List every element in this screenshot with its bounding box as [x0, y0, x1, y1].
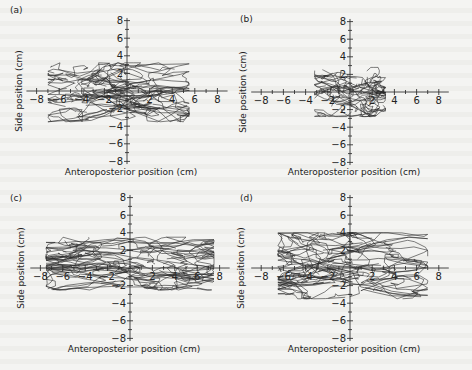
svg-text:4: 4: [120, 227, 126, 238]
svg-text:−4: −4: [331, 122, 346, 133]
svg-text:8: 8: [436, 271, 442, 282]
panel-a-label: (a): [10, 5, 23, 15]
panel-a-xlabel: Anteroposterior position (cm): [65, 167, 197, 177]
svg-text:6: 6: [117, 33, 123, 44]
svg-text:−8: −8: [254, 95, 269, 106]
figure-canvas: (a) Side position (cm) Anteroposterior p…: [0, 0, 472, 370]
svg-text:−8: −8: [331, 333, 346, 344]
svg-text:−8: −8: [331, 157, 346, 168]
svg-text:6: 6: [120, 210, 126, 221]
svg-text:−8: −8: [29, 94, 44, 105]
svg-text:−4: −4: [298, 95, 313, 106]
svg-text:−4: −4: [331, 298, 346, 309]
svg-text:6: 6: [413, 95, 419, 106]
svg-text:−8: −8: [33, 271, 48, 282]
svg-text:8: 8: [117, 15, 123, 26]
svg-text:−8: −8: [111, 333, 126, 344]
svg-text:−6: −6: [331, 315, 346, 326]
svg-text:−6: −6: [276, 95, 291, 106]
svg-text:4: 4: [340, 51, 346, 62]
panel-d-xlabel: Anteroposterior position (cm): [288, 344, 420, 354]
svg-text:6: 6: [340, 34, 346, 45]
panel-c-label: (c): [10, 193, 22, 203]
svg-text:8: 8: [436, 95, 442, 106]
panel-a-ylabel: Side position (cm): [14, 50, 24, 132]
svg-text:4: 4: [117, 50, 123, 61]
panel-d-ylabel: Side position (cm): [236, 227, 246, 309]
svg-text:8: 8: [120, 192, 126, 203]
svg-text:2: 2: [120, 245, 126, 256]
svg-text:−6: −6: [108, 138, 123, 149]
svg-text:−4: −4: [108, 121, 123, 132]
svg-text:6: 6: [192, 94, 198, 105]
panel-d-label: (d): [240, 193, 253, 203]
svg-text:8: 8: [340, 192, 346, 203]
panel-b-label: (b): [240, 14, 253, 24]
svg-text:8: 8: [214, 94, 220, 105]
panel-c-ylabel: Side position (cm): [16, 227, 26, 309]
panel-b-ylabel: Side position (cm): [238, 51, 248, 133]
panel-c-xlabel: Anteroposterior position (cm): [68, 344, 200, 354]
svg-text:8: 8: [216, 271, 222, 282]
svg-text:−8: −8: [254, 271, 269, 282]
svg-text:−6: −6: [331, 139, 346, 150]
svg-text:4: 4: [391, 95, 397, 106]
svg-text:6: 6: [340, 210, 346, 221]
svg-text:8: 8: [340, 16, 346, 27]
svg-text:−6: −6: [111, 315, 126, 326]
svg-text:−4: −4: [111, 298, 126, 309]
svg-text:−8: −8: [108, 156, 123, 167]
scan-bleed-through: [0, 8, 472, 364]
panel-b-xlabel: Anteroposterior position (cm): [288, 167, 420, 177]
